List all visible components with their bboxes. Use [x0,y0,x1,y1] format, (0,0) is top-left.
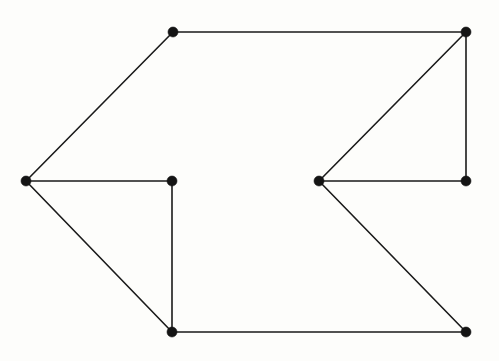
top-right-vertex[interactable] [461,27,471,37]
inner-left-vertex[interactable] [167,176,177,186]
graph-diagram-canvas [0,0,499,361]
inner-right-apex-vertex[interactable] [314,176,324,186]
top-left-vertex[interactable] [168,27,178,37]
graph-svg [0,0,499,361]
left-apex-vertex[interactable] [21,176,31,186]
bottom-left-vertex[interactable] [167,327,177,337]
right-middle-vertex[interactable] [461,176,471,186]
bottom-right-vertex[interactable] [461,327,471,337]
